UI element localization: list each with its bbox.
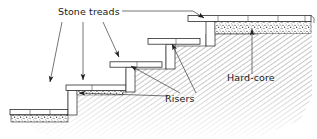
label-risers: Risers xyxy=(165,93,195,104)
diagram-canvas: Stone treads Risers Hard-core xyxy=(0,0,317,139)
step-1-bottom xyxy=(10,110,68,123)
steps-cross-section-diagram: Stone treads Risers Hard-core xyxy=(0,0,317,139)
label-hard-core: Hard-core xyxy=(227,72,275,83)
riser-block-2 xyxy=(68,90,77,115)
hardcore-band-top xyxy=(215,21,311,33)
riser-block-5 xyxy=(206,21,215,46)
stone-tread-slab-3 xyxy=(110,62,162,67)
stone-tread-slab-5 xyxy=(188,16,311,22)
hardcore-band-step-1 xyxy=(11,115,68,122)
label-stone-treads: Stone treads xyxy=(58,6,120,17)
stone-tread-slab-1 xyxy=(10,110,68,115)
riser-block-3 xyxy=(126,67,135,92)
stone-tread-slab-2 xyxy=(66,85,126,90)
stone-tread-slab-4 xyxy=(148,39,200,45)
